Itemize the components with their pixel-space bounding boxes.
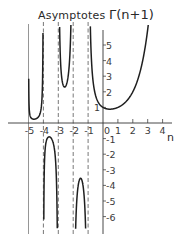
y-tick-label: -4: [106, 180, 115, 191]
x-axis-label: n: [167, 131, 174, 144]
asymptotes-label: Asymptotes: [38, 9, 105, 22]
gamma-curve-main: [90, 25, 148, 109]
y-tick-label: 3: [106, 71, 112, 82]
gamma-function-chart: -5-4-3-2-10123454321-1-2-3-4-5-6: [0, 0, 181, 238]
x-tick-label: -3: [55, 125, 64, 136]
gamma-curve-branch-neg4: [29, 33, 43, 119]
gamma-curve-branch-neg2: [60, 25, 71, 87]
x-tick-label: -4: [40, 125, 49, 136]
y-tick-label: -6: [106, 212, 115, 223]
y-tick-label: 2: [106, 87, 112, 98]
y-tick-label: -5: [106, 196, 115, 207]
gamma-curve-branch-neg1: [76, 178, 86, 229]
y-tick-label: 4: [106, 56, 112, 67]
x-tick-label: 4: [160, 125, 166, 136]
y-tick-label: 5: [106, 40, 112, 51]
x-tick-label: -2: [69, 125, 78, 136]
y-tick-label: -3: [106, 165, 115, 176]
x-tick-label: 2: [130, 125, 136, 136]
function-title: Γ(n+1): [109, 7, 154, 22]
y-tick-label: -1: [106, 134, 115, 145]
x-tick-label: 3: [145, 125, 151, 136]
gamma-curve-branch-neg3: [44, 137, 57, 228]
x-tick-label: 1: [115, 125, 121, 136]
y-tick-label: -2: [106, 149, 115, 160]
x-tick-label: -5: [25, 125, 34, 136]
x-tick-label: -1: [84, 125, 93, 136]
